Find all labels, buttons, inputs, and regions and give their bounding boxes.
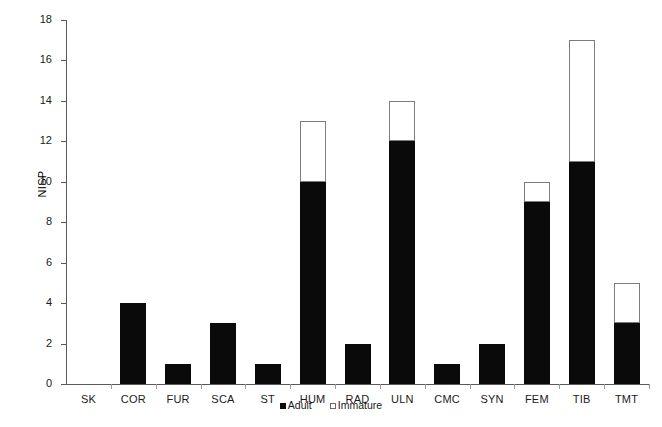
bar-cor — [120, 303, 146, 384]
bar-segment-adult — [434, 364, 460, 384]
bar-fur — [165, 364, 191, 384]
y-axis-tick-label: 0 — [46, 377, 52, 389]
bar-segment-adult — [479, 344, 505, 384]
y-axis-tick: 12 — [61, 141, 66, 142]
y-axis-tick-label: 6 — [46, 256, 52, 268]
x-axis-tick — [245, 384, 246, 389]
chart-legend: AdultImmature — [0, 398, 662, 411]
x-axis-tick — [649, 384, 650, 389]
y-axis-tick-label: 16 — [40, 53, 52, 65]
x-axis-tick — [380, 384, 381, 389]
bar-segment-adult — [569, 162, 595, 384]
bar-hum — [300, 121, 326, 384]
bar-segment-adult — [210, 323, 236, 384]
plot-area: 024681012141618 SKCORFURSCASTHUMRADULNCM… — [66, 20, 649, 384]
y-axis-tick-label: 8 — [46, 215, 52, 227]
legend-swatch-adult-icon — [280, 403, 286, 409]
bar-segment-immature — [524, 182, 550, 202]
bar-syn — [479, 344, 505, 384]
bar-segment-immature — [614, 283, 640, 323]
bar-segment-adult — [165, 364, 191, 384]
bar-st — [255, 364, 281, 384]
bar-segment-adult — [524, 202, 550, 384]
bar-segment-immature — [569, 40, 595, 161]
bar-segment-adult — [255, 364, 281, 384]
legend-item-adult: Adult — [280, 399, 312, 411]
y-axis-tick: 0 — [61, 384, 66, 385]
x-axis-tick — [201, 384, 202, 389]
legend-item-immature: Immature — [330, 399, 382, 411]
y-axis-tick: 18 — [61, 20, 66, 21]
bar-segment-immature — [389, 101, 415, 141]
bar-segment-adult — [389, 141, 415, 384]
x-axis-tick — [425, 384, 426, 389]
bar-cmc — [434, 364, 460, 384]
bar-tib — [569, 40, 595, 384]
bar-segment-adult — [120, 303, 146, 384]
legend-label: Immature — [338, 399, 382, 411]
y-axis-line — [66, 20, 67, 384]
y-axis-tick: 8 — [61, 222, 66, 223]
x-axis-tick — [290, 384, 291, 389]
y-axis-tick: 4 — [61, 303, 66, 304]
y-axis-tick: 6 — [61, 263, 66, 264]
y-axis-tick-label: 14 — [40, 94, 52, 106]
y-axis-tick: 10 — [61, 182, 66, 183]
y-axis-tick: 2 — [61, 344, 66, 345]
x-axis-tick — [559, 384, 560, 389]
bar-segment-adult — [300, 182, 326, 384]
bar-segment-adult — [345, 344, 371, 384]
bar-segment-immature — [300, 121, 326, 182]
x-axis-line — [66, 384, 649, 385]
bar-segment-adult — [614, 323, 640, 384]
bar-uln — [389, 101, 415, 384]
legend-swatch-immature-icon — [330, 403, 336, 409]
y-axis-tick-label: 18 — [40, 13, 52, 25]
bar-rad — [345, 344, 371, 384]
y-axis-tick: 16 — [61, 60, 66, 61]
bar-chart: NISP 024681012141618 SKCORFURSCASTHUMRAD… — [0, 0, 662, 427]
y-axis-tick-label: 2 — [46, 337, 52, 349]
x-axis-tick — [604, 384, 605, 389]
bar-fem — [524, 182, 550, 384]
legend-label: Adult — [288, 399, 312, 411]
x-axis-tick — [470, 384, 471, 389]
y-axis-tick: 14 — [61, 101, 66, 102]
x-axis-tick — [514, 384, 515, 389]
x-axis-tick — [335, 384, 336, 389]
bar-sca — [210, 323, 236, 384]
bar-tmt — [614, 283, 640, 384]
y-axis-tick-label: 12 — [40, 134, 52, 146]
y-axis-tick-label: 4 — [46, 296, 52, 308]
y-axis-tick-label: 10 — [40, 175, 52, 187]
x-axis-tick — [111, 384, 112, 389]
x-axis-tick — [156, 384, 157, 389]
